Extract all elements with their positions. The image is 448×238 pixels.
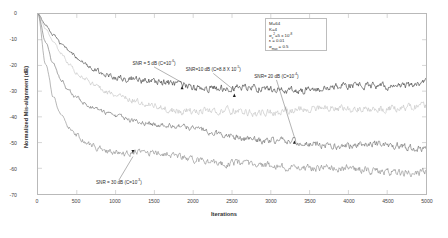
x-tick-label: 4500 xyxy=(368,198,408,204)
y-tick-label: -20 xyxy=(0,62,17,68)
x-tick-label: 3000 xyxy=(251,198,291,204)
x-tick-label: 1000 xyxy=(95,198,135,204)
y-tick-label: -50 xyxy=(0,140,17,146)
curve-annotation: SNR = 5 dB (C=10-6) xyxy=(132,61,175,66)
x-tick-label: 2500 xyxy=(212,198,252,204)
x-tick-label: 3500 xyxy=(290,198,330,204)
series-line xyxy=(38,14,426,117)
series-line xyxy=(38,14,426,177)
curve-annotation: SNR= 20 dB (C=10-4) xyxy=(254,74,298,79)
x-tick-label: 500 xyxy=(56,198,96,204)
plot-area xyxy=(37,13,427,195)
figure-container: Normalized Mis-alignment (dB) Iterations… xyxy=(0,0,448,238)
y-tick-label: -60 xyxy=(0,166,17,172)
y-tick-label: 0 xyxy=(0,10,17,16)
x-tick-label: 4000 xyxy=(329,198,369,204)
x-axis-title: Iterations xyxy=(0,211,448,217)
x-tick-label: 0 xyxy=(17,198,57,204)
y-tick-label: -70 xyxy=(0,192,17,198)
y-tick-label: -10 xyxy=(0,36,17,42)
y-tick-label: -40 xyxy=(0,114,17,120)
curve-annotation: SNR=10 dB (C=8.8 X 10-5) xyxy=(186,68,241,73)
y-axis-title: Normalized Mis-alignment (dB) xyxy=(23,52,29,162)
x-tick-label: 2000 xyxy=(173,198,213,204)
x-tick-label: 1500 xyxy=(134,198,174,204)
legend-parameter: σmax = 0.5 xyxy=(269,44,323,50)
parameter-legend-box: M=64K=4σv2=5 x 10-8ε = 0.01σmax = 0.5 xyxy=(265,18,327,51)
series-canvas xyxy=(38,14,426,194)
series-line xyxy=(38,14,426,94)
y-tick-label: -30 xyxy=(0,88,17,94)
curve-annotation: SNR = 30 dB (C=10-3) xyxy=(96,181,142,186)
x-tick-label: 5000 xyxy=(407,198,447,204)
